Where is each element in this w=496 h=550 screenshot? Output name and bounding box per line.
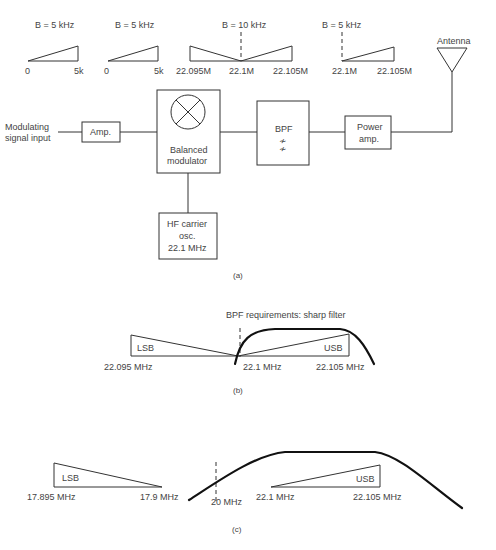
freq-label: 22.1 MHz [243,362,282,372]
svg-text:≁: ≁ [279,144,287,154]
usb-triangle [241,46,292,61]
oscillator-label: HF carrier [167,219,207,229]
freq-label: 22.105M [377,66,412,76]
antenna-icon [437,48,467,72]
filter-symbol-icon: ≁ ≁ [279,136,287,154]
bandwidth-label: B = 5 kHz [115,20,155,30]
sideband-triangle [108,46,158,61]
ssb-transmitter-diagram: B = 5 kHz 0 5k B = 5 kHz 0 5k B = 10 kHz… [0,0,496,550]
bpf-label: BPF [275,124,293,134]
freq-label: 22.105 MHz [316,362,365,372]
power-amp-label: amp. [359,134,379,144]
freq-label: 5k [74,66,84,76]
usb-triangle [342,47,394,61]
panel-b-title: BPF requirements: sharp filter [226,310,346,320]
power-amp-block [345,116,391,149]
bandwidth-label: B = 5 kHz [322,20,362,30]
freq-label: 0 [25,66,30,76]
freq-label: 0 [104,66,109,76]
freq-label: 22.105M [273,66,308,76]
bandwidth-label: B = 5 kHz [35,20,75,30]
caption-b: (b) [233,386,243,395]
modulator-label: Balanced [170,145,208,155]
freq-label: 17.895 MHz [27,492,76,502]
power-amp-label: Power [357,122,383,132]
usb-label: USB [324,343,343,353]
caption-a: (a) [233,271,243,280]
freq-label: 5k [154,66,164,76]
freq-label: 22.1 MHz [256,492,295,502]
input-label: Modulating [5,122,49,132]
oscillator-label: osc. [179,231,196,241]
lsb-label: LSB [137,343,154,353]
usb-label: USB [356,474,375,484]
freq-label: 22.1M [229,66,254,76]
caption-c: (c) [232,525,242,534]
lsb-label: LSB [62,473,79,483]
sharp-filter-curve [235,329,374,364]
oscillator-label: 22.1 MHz [168,243,207,253]
antenna-label: Antenna [437,36,471,46]
spectrum-1: B = 5 kHz 0 5k [25,20,84,76]
spectrum-3-dsb: B = 10 kHz 22.095M 22.1M 22.105M [176,20,308,76]
freq-label: 22.095 MHz [104,362,153,372]
freq-label: 22.105 MHz [353,492,402,502]
freq-label: 22.095M [176,66,211,76]
freq-label: 17.9 MHz [140,492,179,502]
antenna-feed-line [391,72,452,132]
bandwidth-label: B = 10 kHz [222,20,267,30]
spectrum-4-ssb: B = 5 kHz 22.1M 22.105M [322,20,412,76]
freq-label: 22.1M [332,66,357,76]
lsb-triangle [190,46,241,61]
modulator-label: modulator [167,156,207,166]
spectrum-2: B = 5 kHz 0 5k [104,20,164,76]
input-label: signal input [5,133,51,143]
freq-label: 20 MHz [211,497,243,507]
sideband-triangle [28,46,78,61]
amp-label: Amp. [90,127,111,137]
